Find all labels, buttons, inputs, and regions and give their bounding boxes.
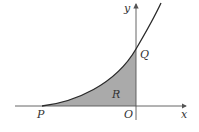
point-p-label: P xyxy=(36,108,45,121)
diagram-canvas: y Q R P O x xyxy=(0,0,199,132)
point-q-label: Q xyxy=(140,48,149,61)
diagram-figure: y Q R P O x xyxy=(0,0,199,132)
x-axis-label: x xyxy=(181,108,188,121)
region-r-label: R xyxy=(111,88,120,101)
origin-label: O xyxy=(124,108,133,121)
y-axis-label: y xyxy=(123,2,131,15)
shaded-region-r xyxy=(42,49,136,106)
